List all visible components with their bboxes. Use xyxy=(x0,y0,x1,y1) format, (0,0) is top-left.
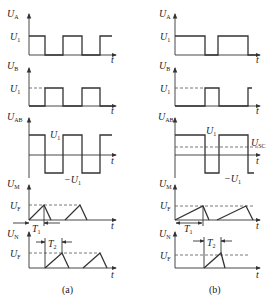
caption-b: (b) xyxy=(209,284,221,296)
plot-a-uab: UAB U1 −U1 t xyxy=(7,111,116,186)
plot-b-ub: UB U1 t xyxy=(159,60,260,116)
low-label-neg-u1: −U1 xyxy=(224,173,241,185)
ylabel-um: UM xyxy=(159,178,172,190)
high-label-u1: U1 xyxy=(206,125,216,137)
waveform-ub xyxy=(29,88,112,106)
period-label-t2: T2 xyxy=(48,238,57,250)
ramp-1 xyxy=(175,206,209,220)
waveform-ub xyxy=(175,88,252,106)
ylabel-uab: UAB xyxy=(158,111,174,123)
xlabel-t: t xyxy=(256,269,259,280)
level-label-u1: U1 xyxy=(160,83,170,95)
xlabel-t: t xyxy=(256,105,259,116)
plot-b-uab: UAB U1 −U1 USC t xyxy=(158,111,266,185)
level-label-uf: UF xyxy=(160,250,171,262)
level-label-u1: U1 xyxy=(10,83,20,95)
ylabel-ub: UB xyxy=(7,60,18,72)
period-label-t1: T1 xyxy=(32,223,41,235)
waveform-ua xyxy=(175,36,256,55)
high-label-u1: U1 xyxy=(50,129,60,141)
ylabel-ua: UA xyxy=(159,8,171,20)
ylabel-ua: UA xyxy=(7,8,19,20)
waveform-ua xyxy=(29,36,112,55)
xlabel-t: t xyxy=(111,105,114,116)
xlabel-t: t xyxy=(111,155,114,166)
level-label-uf: UF xyxy=(160,200,171,212)
ramp-1 xyxy=(29,205,51,220)
plot-a-ub: UB U1 t xyxy=(7,60,116,116)
plot-a-um: UM UF T1 t xyxy=(7,178,116,235)
panel-a: UA U1 t UB U1 t UAB U1 −U1 t xyxy=(7,8,116,296)
ylabel-ub: UB xyxy=(159,60,170,72)
plot-b-ua: UA U1 t xyxy=(159,8,260,65)
ramp-2 xyxy=(83,253,107,268)
waveform-diagram: UA U1 t UB U1 t UAB U1 −U1 t xyxy=(0,0,269,299)
waveform-uab xyxy=(175,135,254,173)
low-label-neg-u1: −U1 xyxy=(64,174,81,186)
xlabel-t: t xyxy=(256,54,259,65)
xlabel-t: t xyxy=(256,155,259,166)
ylabel-uab: UAB xyxy=(7,111,23,123)
plot-a-un: UN UF T2 t xyxy=(7,228,116,280)
xlabel-t: t xyxy=(111,54,114,65)
ylabel-um: UM xyxy=(7,178,20,190)
period-label-t2: T2 xyxy=(207,237,216,249)
level-label-uf: UF xyxy=(10,200,21,212)
caption-a: (a) xyxy=(62,284,73,296)
plot-b-um: UM UF T1 t xyxy=(159,178,260,235)
xlabel-t: t xyxy=(111,220,114,231)
period-label-t1: T1 xyxy=(184,223,193,235)
ramp-2 xyxy=(217,206,253,220)
panel-b: UA U1 t UB U1 t UAB U1 −U1 USC t xyxy=(158,8,266,296)
xlabel-t: t xyxy=(111,269,114,280)
plot-a-ua: UA U1 t xyxy=(7,8,116,65)
xlabel-t: t xyxy=(256,220,259,231)
waveform-uab xyxy=(29,135,112,173)
ylabel-un: UN xyxy=(7,228,19,240)
level-label-uf: UF xyxy=(10,248,21,260)
level-label-u1: U1 xyxy=(160,31,170,43)
ramp-2 xyxy=(65,205,87,220)
threshold-label-usc: USC xyxy=(251,137,266,149)
plot-b-un: UN UF T2 t xyxy=(159,228,260,280)
ramp-1 xyxy=(45,253,69,268)
ylabel-un: UN xyxy=(159,228,171,240)
level-label-u1: U1 xyxy=(10,31,20,43)
